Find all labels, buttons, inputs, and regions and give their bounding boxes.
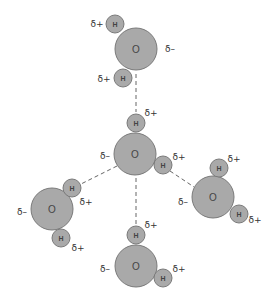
partial-positive-charge-label: δ+ [71, 243, 84, 253]
partial-negative-charge-label: δ– [165, 44, 176, 54]
partial-negative-charge-label: δ– [17, 207, 28, 217]
oxygen-label: O [209, 192, 217, 203]
partial-positive-charge-label: δ+ [144, 220, 157, 230]
water-molecule-right: Oδ–Hδ+Hδ+ [178, 154, 262, 225]
hydrogen-label: H [120, 75, 125, 82]
hydrogen-label: H [160, 162, 165, 169]
partial-negative-charge-label: δ– [100, 264, 111, 274]
hydrogen-label: H [112, 21, 117, 28]
hydrogen-label: H [58, 235, 63, 242]
water-hydrogen-bond-diagram: Oδ–Hδ+Hδ+Oδ–Hδ+Hδ+Oδ–Hδ+Hδ+Oδ–Hδ+Hδ+Oδ–H… [0, 0, 276, 303]
partial-positive-charge-label: δ+ [172, 152, 185, 162]
partial-negative-charge-label: δ– [178, 197, 189, 207]
hydrogen-label: H [236, 211, 241, 218]
oxygen-label: O [48, 204, 56, 215]
water-molecule-left: Oδ–Hδ+Hδ+ [17, 179, 93, 253]
oxygen-label: O [131, 149, 139, 160]
partial-positive-charge-label: δ+ [97, 74, 110, 84]
diagram-svg: Oδ–Hδ+Hδ+Oδ–Hδ+Hδ+Oδ–Hδ+Hδ+Oδ–Hδ+Hδ+Oδ–H… [0, 0, 276, 303]
water-molecule-top: Oδ–Hδ+Hδ+ [90, 15, 175, 87]
water-molecule-bottom: Oδ–Hδ+Hδ+ [100, 220, 186, 287]
partial-positive-charge-label: δ+ [79, 197, 92, 207]
oxygen-label: O [132, 44, 140, 55]
hydrogen-bond-line [81, 166, 117, 184]
hydrogen-bond-line [170, 171, 194, 187]
hydrogen-label: H [160, 275, 165, 282]
hydrogen-label: H [216, 165, 221, 172]
oxygen-label: O [132, 261, 140, 272]
partial-positive-charge-label: δ+ [172, 264, 185, 274]
partial-negative-charge-label: δ– [100, 151, 111, 161]
partial-positive-charge-label: δ+ [227, 154, 240, 164]
hydrogen-label: H [133, 120, 138, 127]
hydrogen-label: H [69, 185, 74, 192]
partial-positive-charge-label: δ+ [144, 108, 157, 118]
hydrogen-label: H [133, 232, 138, 239]
partial-positive-charge-label: δ+ [248, 215, 261, 225]
water-molecule-center: Oδ–Hδ+Hδ+ [100, 108, 186, 175]
partial-positive-charge-label: δ+ [90, 19, 103, 29]
